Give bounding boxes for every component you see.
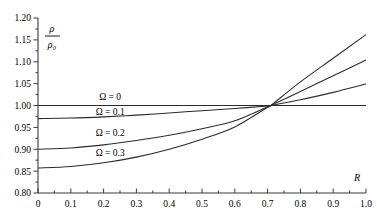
y-tick-label: 1.15 [14,35,31,45]
x-tick-label: 0.5 [196,199,208,209]
x-tick-label: 1.0 [360,199,372,209]
x-tick-label: 0.4 [163,199,175,209]
curve-label: Ω = 0.2 [96,128,125,138]
x-tick-label: 0.6 [229,199,241,209]
y-tick-label: 0.90 [14,145,31,155]
y-tick-label: 1.20 [14,13,31,23]
curve-label: Ω = 0.3 [96,148,125,158]
x-tick-label: 0.1 [65,199,77,209]
x-tick-label: 0.9 [327,199,339,209]
axis-names-layer: ρ ρ₀ R [45,23,360,183]
data-curve [38,60,366,149]
y-tick-label: 1.05 [14,79,31,89]
x-axis-label: R [353,172,360,183]
y-tick-label: 0.80 [14,188,31,198]
x-tick-label: 0.3 [130,199,142,209]
x-tick-label: 0.2 [98,199,110,209]
chart-container: 0.800.850.900.951.001.051.101.151.2000.1… [0,0,377,220]
curve-label: Ω = 0 [99,92,121,102]
x-tick-label: 0.8 [294,199,306,209]
data-curve [38,84,366,119]
curve-labels-layer: Ω = 0Ω = 0.1Ω = 0.2Ω = 0.3 [96,92,125,158]
y-axis-label-denominator: ρ₀ [47,39,57,50]
y-tick-label: 1.00 [14,101,31,111]
x-tick-label: 0 [36,199,41,209]
curves-layer [38,35,366,168]
y-axis-label-numerator: ρ [49,23,55,34]
chart-plot-area: 0.800.850.900.951.001.051.101.151.2000.1… [0,0,377,220]
data-curve [38,35,366,168]
y-tick-label: 0.95 [14,123,31,133]
y-tick-label: 1.10 [14,57,31,67]
x-tick-label: 0.7 [262,199,274,209]
curve-label: Ω = 0.1 [96,107,125,117]
y-tick-label: 0.85 [14,167,31,177]
